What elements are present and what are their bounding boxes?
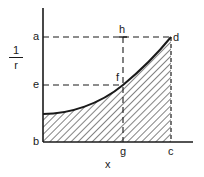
point-label-f: f [116,72,119,83]
y-axis-label: 1 r [9,45,23,71]
y-axis-label-denominator: r [9,60,23,71]
point-label-a: a [33,31,39,42]
y-axis-label-numerator: 1 [9,45,23,56]
point-label-d: d [173,32,179,43]
point-label-h: h [119,24,125,35]
point-label-e: e [33,79,39,90]
point-label-g: g [120,146,126,157]
fraction-bar [9,57,23,58]
point-label-c: c [168,146,174,157]
point-label-b: b [33,136,39,147]
integral-area-diagram: 1 r a e b h d f g c x [0,0,204,177]
hatched-area [43,30,173,143]
x-axis-label: x [105,159,111,170]
